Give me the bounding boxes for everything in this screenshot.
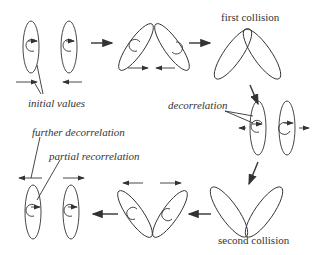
stage-second-collision (204, 182, 288, 241)
label-partial-recorrelation: partial recorrelation (49, 151, 140, 162)
stage-approach (113, 19, 194, 74)
leader-line (31, 137, 40, 178)
label-initial-values: initial values (28, 98, 85, 109)
stage-after-second (112, 183, 192, 242)
label-decorrelation: decorrelation (168, 100, 227, 111)
leader-line (37, 160, 60, 200)
label-further-decorrelation: further decorrelation (32, 127, 125, 138)
leader-line (225, 111, 253, 123)
label-first-collision: first collision (221, 12, 279, 23)
stage-initial (16, 21, 82, 94)
stage-first-collision (208, 24, 286, 83)
label-second-collision: second collision (218, 235, 289, 246)
stage-decorrelation (225, 101, 309, 155)
leader-line (37, 65, 43, 94)
leader-line (34, 82, 41, 94)
flow-arrow-4 (249, 162, 258, 184)
leader-line (225, 111, 253, 116)
